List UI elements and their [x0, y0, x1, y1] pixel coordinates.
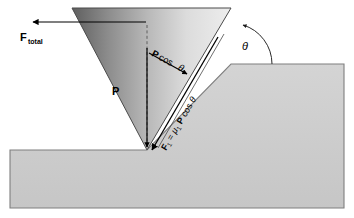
wedge-friction-diagram: F total P P cos θ F1 = μ1 P cos θ θ: [0, 0, 354, 218]
p-force-label: P: [112, 85, 119, 97]
diagram-canvas: F total P P cos θ F1 = μ1 P cos θ θ: [0, 0, 354, 218]
theta-angle-label: θ: [242, 40, 248, 52]
f-total-label-subscript: total: [28, 38, 43, 45]
f-total-label-symbol: F: [20, 31, 27, 43]
